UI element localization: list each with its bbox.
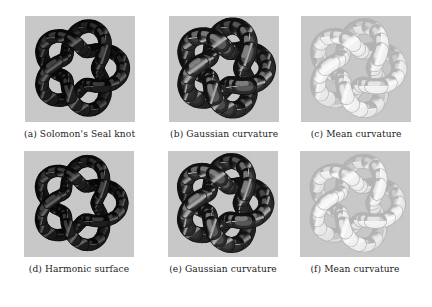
knot-render-f (300, 151, 410, 257)
figure-panel-b: (b) Gaussian curvature (169, 16, 279, 139)
figure-panel-e: (e) Gaussian curvature (168, 151, 278, 274)
knot-render-a (25, 16, 135, 122)
panel-caption-d: (d) Harmonic surface (29, 264, 130, 274)
knot-render-c (301, 16, 411, 122)
torus-knot-svg-a (25, 16, 135, 122)
figure-container: (a) Solomon's Seal knot (b) Gaussian cur… (0, 0, 432, 307)
torus-knot-svg-c (301, 16, 411, 122)
figure-panel-d: (d) Harmonic surface (24, 151, 134, 274)
figure-row-bottom: (d) Harmonic surface (e) Gaussian curvat… (0, 139, 432, 274)
panel-caption-e: (e) Gaussian curvature (169, 264, 277, 274)
figure-panel-c: (c) Mean curvature (301, 16, 411, 139)
torus-knot-svg-d (24, 151, 134, 257)
panel-caption-c: (c) Mean curvature (311, 129, 402, 139)
torus-knot-svg-b (169, 16, 279, 122)
figure-panel-a: (a) Solomon's Seal knot (24, 16, 135, 139)
knot-render-b (169, 16, 279, 122)
knot-render-d (24, 151, 134, 257)
figure-row-top: (a) Solomon's Seal knot (b) Gaussian cur… (0, 0, 432, 139)
torus-knot-svg-e (168, 151, 278, 257)
knot-render-e (168, 151, 278, 257)
panel-caption-a: (a) Solomon's Seal knot (24, 129, 135, 139)
panel-caption-b: (b) Gaussian curvature (170, 129, 278, 139)
torus-knot-svg-f (300, 151, 410, 257)
panel-caption-f: (f) Mean curvature (310, 264, 399, 274)
figure-panel-f: (f) Mean curvature (300, 151, 410, 274)
